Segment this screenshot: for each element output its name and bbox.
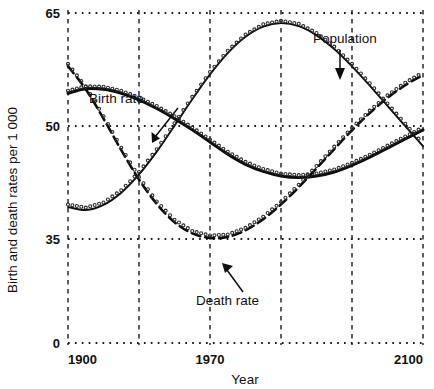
population-curve (68, 23, 423, 210)
data-marker (364, 77, 367, 80)
data-marker (191, 95, 194, 98)
data-marker (248, 162, 251, 165)
data-marker (395, 112, 398, 115)
data-marker (204, 233, 207, 236)
data-marker (342, 136, 345, 139)
data-marker (386, 102, 389, 105)
data-marker (231, 231, 234, 234)
data-marker (160, 141, 163, 144)
data-marker (257, 166, 260, 169)
data-marker (337, 140, 340, 143)
data-marker (120, 146, 123, 149)
data-marker (84, 206, 87, 209)
data-marker (231, 45, 234, 48)
data-marker (355, 122, 358, 125)
data-marker (337, 166, 340, 169)
data-marker (364, 155, 367, 158)
data-marker (213, 141, 216, 144)
data-marker (288, 192, 291, 195)
data-marker (399, 137, 402, 140)
data-marker (351, 62, 354, 65)
data-marker (67, 62, 70, 65)
data-marker (67, 89, 70, 92)
data-marker (182, 109, 185, 112)
data-marker (200, 132, 203, 135)
data-marker (417, 137, 420, 140)
death-rate-label: Death rate (196, 293, 259, 308)
chart-figure: 65 50 35 0 1900 1970 2100 Year Birth and… (0, 0, 434, 389)
data-marker (266, 22, 269, 25)
data-marker (404, 135, 407, 138)
data-marker (164, 135, 167, 138)
data-marker (98, 107, 101, 110)
data-marker (80, 205, 83, 208)
data-marker (359, 72, 362, 75)
data-marker (368, 153, 371, 156)
data-marker (271, 21, 274, 24)
data-marker (235, 230, 238, 233)
data-marker (319, 171, 322, 174)
data-marker (333, 145, 336, 148)
data-marker (417, 74, 420, 77)
data-marker (346, 163, 349, 166)
data-marker (151, 102, 154, 105)
data-marker (346, 131, 349, 134)
population-arrowhead (335, 68, 345, 80)
data-marker (324, 170, 327, 173)
data-marker (262, 215, 265, 218)
data-marker (364, 113, 367, 116)
data-marker (373, 87, 376, 90)
data-marker (84, 85, 87, 88)
data-marker (257, 25, 260, 28)
data-marker (284, 172, 287, 175)
data-marker (102, 201, 105, 204)
data-marker (146, 159, 149, 162)
data-marker (390, 142, 393, 145)
data-marker (377, 149, 380, 152)
x-axis-title: Year (231, 372, 259, 387)
data-marker (67, 203, 70, 206)
data-marker (213, 234, 216, 237)
data-marker (173, 122, 176, 125)
data-marker (155, 148, 158, 151)
y-tick-label-0: 0 (53, 336, 60, 351)
data-marker (368, 109, 371, 112)
data-marker (75, 87, 78, 90)
data-marker (297, 183, 300, 186)
data-marker (93, 204, 96, 207)
data-marker (75, 205, 78, 208)
data-marker (355, 159, 358, 162)
data-marker (138, 176, 141, 179)
data-marker (266, 212, 269, 215)
data-marker (160, 205, 163, 208)
data-marker (111, 87, 114, 90)
data-marker (89, 85, 92, 88)
y-tick-label-65: 65 (46, 6, 60, 21)
data-marker (217, 144, 220, 147)
data-marker (226, 49, 229, 52)
data-marker (355, 67, 358, 70)
data-marker (151, 153, 154, 156)
data-marker (386, 144, 389, 147)
data-marker (390, 107, 393, 110)
data-marker (217, 234, 220, 237)
data-marker (124, 184, 127, 187)
data-marker (266, 169, 269, 172)
x-tick-label-1900: 1900 (68, 352, 97, 367)
data-marker (293, 188, 296, 191)
data-marker (395, 140, 398, 143)
data-marker (359, 118, 362, 121)
data-marker (115, 192, 118, 195)
data-marker (186, 102, 189, 105)
data-marker (373, 151, 376, 154)
data-marker (288, 21, 291, 24)
data-marker (129, 180, 132, 183)
data-marker (151, 194, 154, 197)
data-marker (160, 107, 163, 110)
series-death-rate (67, 62, 424, 238)
data-marker (297, 22, 300, 25)
data-marker (253, 221, 256, 224)
data-marker (235, 155, 238, 158)
data-marker (102, 85, 105, 88)
data-marker (288, 173, 291, 176)
